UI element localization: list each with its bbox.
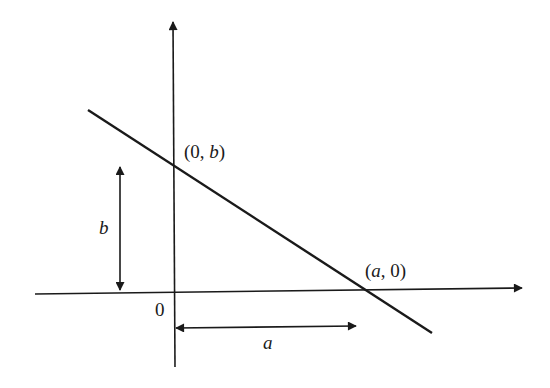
a-dimension-arrow [176, 326, 356, 328]
y-intercept-var: b [209, 141, 219, 162]
a-dimension-label: a [263, 332, 273, 354]
y-intercept-label: (0, b) [184, 141, 225, 163]
x-intercept-close: , 0) [381, 260, 406, 281]
x-intercept-label: (a, 0) [365, 260, 406, 282]
y-intercept-close: ) [219, 141, 225, 162]
x-axis [35, 288, 522, 294]
y-axis [173, 22, 175, 367]
intercept-line [88, 110, 432, 333]
y-intercept-open: (0, [184, 141, 209, 162]
diagram-canvas: (0, b) (a, 0) 0 b a [0, 0, 550, 388]
origin-label: 0 [155, 299, 165, 321]
x-intercept-var: a [371, 260, 381, 281]
b-dimension-label: b [99, 217, 109, 239]
diagram-graphics [0, 0, 550, 388]
